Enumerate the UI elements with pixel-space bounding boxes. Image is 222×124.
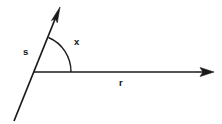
diagonal-ray-label: s (23, 46, 28, 57)
arc-label: x (74, 36, 80, 47)
angle-diagram-svg: x s r (0, 0, 222, 124)
horizontal-ray-label: r (119, 77, 123, 88)
angle-diagram-canvas: x s r (0, 0, 222, 124)
diagram-background (0, 0, 222, 124)
